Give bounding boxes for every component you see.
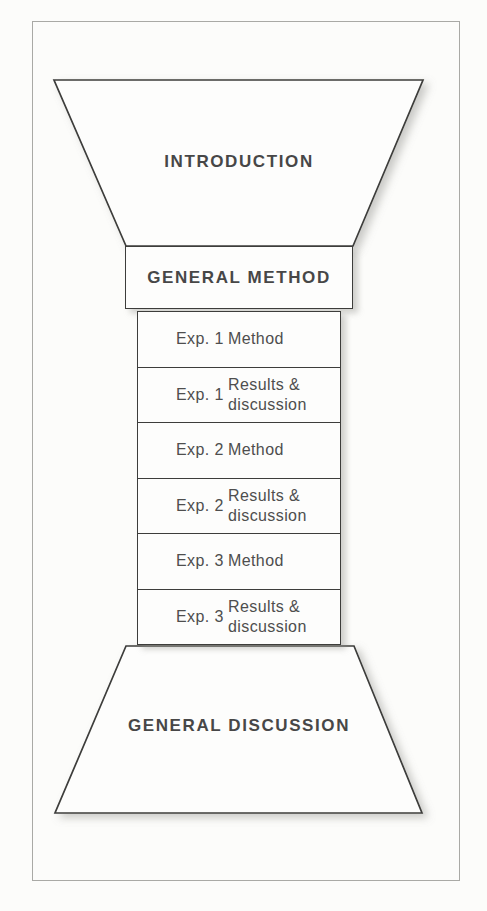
general-method-label: GENERAL METHOD bbox=[147, 268, 331, 288]
scanned-page: INTRODUCTION GENERAL METHOD Exp. 1 Metho… bbox=[0, 0, 487, 911]
experiment-row: Exp. 3 Results & discussion bbox=[138, 590, 340, 645]
experiment-section: Results & discussion bbox=[228, 597, 307, 637]
general-discussion-label: GENERAL DISCUSSION bbox=[89, 716, 389, 736]
experiment-row: Exp. 1 Method bbox=[138, 312, 340, 368]
experiment-section: Method bbox=[228, 329, 284, 349]
experiment-section: Results & discussion bbox=[228, 486, 307, 526]
experiment-section: Method bbox=[228, 440, 284, 460]
experiment-row: Exp. 1 Results & discussion bbox=[138, 368, 340, 424]
experiment-section: Method bbox=[228, 551, 284, 571]
experiment-row: Exp. 2 Results & discussion bbox=[138, 479, 340, 535]
experiment-section: Results & discussion bbox=[228, 375, 307, 415]
introduction-label: INTRODUCTION bbox=[104, 152, 374, 172]
experiment-number: Exp. 1 bbox=[176, 386, 228, 404]
experiment-row: Exp. 2 Method bbox=[138, 423, 340, 479]
experiment-stack: Exp. 1 Method Exp. 1 Results & discussio… bbox=[137, 311, 341, 645]
experiment-number: Exp. 2 bbox=[176, 497, 228, 515]
experiment-number: Exp. 3 bbox=[176, 552, 228, 570]
experiment-number: Exp. 1 bbox=[176, 330, 228, 348]
experiment-number: Exp. 2 bbox=[176, 441, 228, 459]
experiment-row: Exp. 3 Method bbox=[138, 534, 340, 590]
experiment-number: Exp. 3 bbox=[176, 608, 228, 626]
general-method-box: GENERAL METHOD bbox=[125, 246, 353, 309]
